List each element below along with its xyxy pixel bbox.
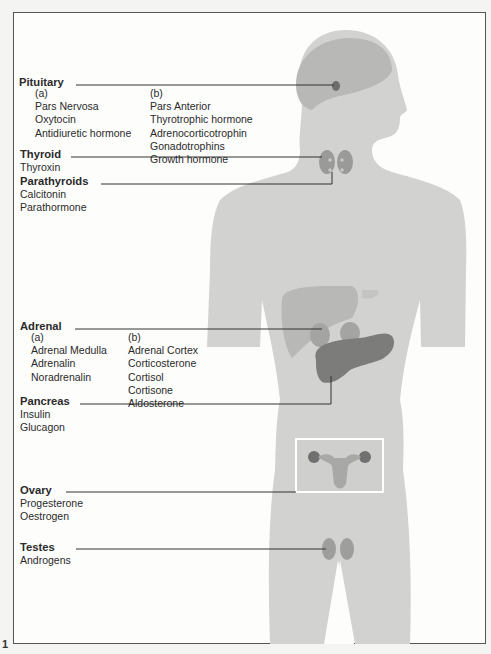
hormone-item: Calcitonin	[20, 188, 88, 201]
hormone-item: Pars Anterior	[150, 100, 253, 113]
gland-name: Testes	[20, 541, 71, 554]
gland-name: Pancreas	[20, 395, 70, 408]
hormone-item: Pars Nervosa	[35, 100, 131, 113]
hormone-item: Androgens	[20, 554, 71, 567]
testis-right	[340, 538, 354, 560]
hormone-item: Adrenal Cortex	[128, 344, 198, 357]
gland-name: Ovary	[20, 484, 83, 497]
hormone-item: Parathormone	[20, 201, 88, 214]
parathyroids-label-block: Parathyroids Calcitonin Parathormone	[20, 175, 88, 215]
hormone-item: Insulin	[20, 408, 70, 421]
ovary-label-block: Ovary Progesterone Oestrogen	[20, 484, 83, 524]
adrenal-column-a: (a) Adrenal Medulla Adrenalin Noradrenal…	[31, 331, 107, 384]
pituitary-gland	[332, 81, 340, 91]
pancreas-label-block: Pancreas Insulin Glucagon	[20, 395, 70, 435]
column-label: (a)	[35, 87, 131, 100]
hormone-item: Antidiuretic hormone	[35, 127, 131, 140]
adrenal-gland-left	[310, 323, 330, 347]
figure-number: 1	[2, 638, 8, 650]
column-label: (b)	[150, 87, 253, 100]
adrenal-column-b: (b) Adrenal Cortex Corticosterone Cortis…	[128, 331, 198, 410]
hormone-item: Thyroxin	[20, 161, 61, 174]
thyroid-label-block: Thyroid Thyroxin	[20, 148, 61, 174]
pituitary-column-b: (b) Pars Anterior Thyrotrophic hormone A…	[150, 87, 253, 166]
hormone-item: Gonadotrophins	[150, 140, 253, 153]
hormone-item: Adrenocorticotrophin	[150, 127, 253, 140]
column-label: (a)	[31, 331, 107, 344]
hormone-item: Thyrotrophic hormone	[150, 113, 253, 126]
hormone-item: Aldosterone	[128, 397, 198, 410]
hormone-item: Oestrogen	[20, 510, 83, 523]
hormone-item: Adrenal Medulla	[31, 344, 107, 357]
hormone-item: Corticosterone	[128, 357, 198, 370]
gland-name: Parathyroids	[20, 175, 88, 188]
hormone-item: Growth hormone	[150, 153, 253, 166]
hormone-item: Noradrenalin	[31, 371, 107, 384]
testes-label-block: Testes Androgens	[20, 541, 71, 567]
hormone-item: Cortisone	[128, 384, 198, 397]
gland-name: Thyroid	[20, 148, 61, 161]
hormone-item: Adrenalin	[31, 357, 107, 370]
pituitary-column-a: (a) Pars Nervosa Oxytocin Antidiuretic h…	[35, 87, 131, 140]
hormone-item: Cortisol	[128, 371, 198, 384]
column-label: (b)	[128, 331, 198, 344]
hormone-item: Oxytocin	[35, 113, 131, 126]
hormone-item: Progesterone	[20, 497, 83, 510]
hormone-item: Glucagon	[20, 421, 70, 434]
